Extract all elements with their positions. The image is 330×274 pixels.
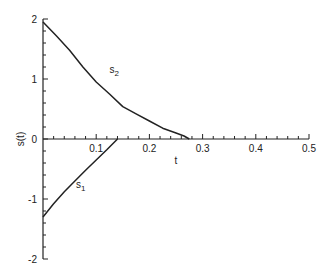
y-tick-label: -1 — [28, 194, 37, 205]
chart-svg: -2-10120.10.20.30.40.5ts(t)s2s1 — [0, 0, 330, 274]
x-tick-label: 0.4 — [249, 143, 263, 154]
x-tick-label: 0.2 — [142, 143, 156, 154]
label-s1: s1 — [76, 179, 86, 193]
x-tick-label: 0.5 — [302, 143, 316, 154]
curve-s1 — [43, 139, 118, 217]
y-tick-label: 2 — [31, 14, 37, 25]
label-s2: s2 — [110, 64, 120, 78]
y-tick-label: 1 — [31, 74, 37, 85]
chart: -2-10120.10.20.30.40.5ts(t)s2s1 — [0, 0, 330, 274]
y-axis-label: s(t) — [15, 132, 26, 146]
curve-s2 — [43, 22, 189, 139]
axes — [43, 19, 309, 259]
y-tick-label: 0 — [31, 134, 37, 145]
y-tick-label: -2 — [28, 254, 37, 265]
curves — [43, 22, 189, 217]
x-axis-label: t — [175, 155, 178, 166]
x-tick-label: 0.3 — [196, 143, 210, 154]
x-tick-label: 0.1 — [89, 143, 103, 154]
